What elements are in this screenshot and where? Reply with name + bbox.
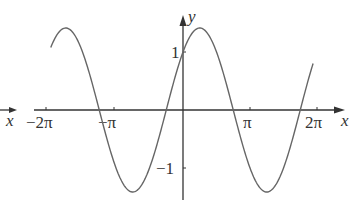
tick-label-1: 1	[171, 43, 180, 62]
tick-label-pi: π	[243, 113, 252, 132]
tick-label-2pi: 2π	[305, 113, 323, 132]
x-axis-label: x	[340, 111, 349, 130]
plot-area: x y x −2π −π π 2π 1 −1	[0, 0, 359, 207]
stray-x-label: x	[5, 111, 14, 130]
chart: x y x −2π −π π 2π 1 −1	[0, 0, 359, 207]
y-axis-arrow-icon	[180, 15, 187, 26]
tick-label-neg1: −1	[156, 159, 174, 178]
tick-label-neg2pi: −2π	[26, 113, 53, 132]
y-axis-label: y	[186, 7, 196, 26]
